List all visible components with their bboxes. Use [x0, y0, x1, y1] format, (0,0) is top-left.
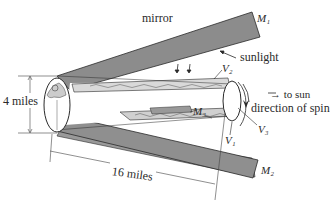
label-diameter-4-miles: 4 miles	[3, 95, 38, 107]
label-v1: V₁	[225, 135, 236, 146]
label-v3: V₃	[258, 124, 269, 135]
cylinder-end-right	[223, 81, 249, 126]
label-to-sun: → to sun	[270, 89, 310, 100]
label-v2: V₂	[222, 63, 233, 74]
cylinder-body	[56, 76, 238, 130]
label-m2: M₂	[261, 165, 274, 176]
cylinder-end-left	[44, 78, 70, 132]
mirror-m2	[57, 117, 258, 178]
label-sunlight: sunlight	[240, 51, 279, 63]
label-m3: M₃	[193, 106, 206, 117]
label-direction-of-spin: direction of spin	[251, 102, 330, 114]
label-m1: M₁	[257, 13, 270, 24]
label-mirror: mirror	[142, 12, 173, 24]
